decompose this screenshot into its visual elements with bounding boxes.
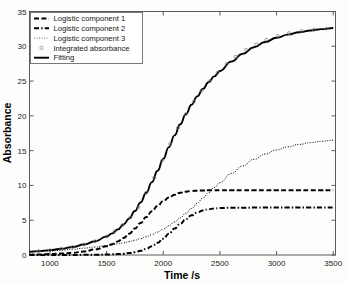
data-point-marker: [255, 43, 258, 46]
x-tick-label: 2000: [154, 259, 172, 268]
series-logistic-component-2: [30, 208, 334, 255]
x-tick-label: 3000: [268, 259, 286, 268]
legend-item-label: Logistic component 3: [54, 34, 126, 43]
legend: Logistic component 1Logistic component 2…: [31, 13, 143, 64]
legend-item-label: Logistic component 1: [54, 14, 126, 23]
y-tick-label: 30: [18, 42, 27, 51]
x-axis-title: Time /s: [164, 269, 200, 281]
legend-item-label: Integrated absorbance: [54, 44, 130, 53]
legend-item-label: Fitting: [54, 53, 75, 62]
data-point-marker: [265, 38, 268, 41]
x-axis-tick-labels: 100015002000250030003500: [41, 259, 343, 268]
data-point-marker: [244, 48, 247, 51]
chart-figure: 100015002000250030003500 05101520253035 …: [0, 0, 348, 283]
x-tick-label: 1000: [41, 259, 59, 268]
y-tick-label: 5: [22, 216, 27, 225]
y-tick-label: 15: [18, 147, 27, 156]
x-tick-label: 3500: [324, 259, 342, 268]
x-tick-label: 2500: [211, 259, 229, 268]
x-tick-label: 1500: [98, 259, 116, 268]
y-tick-label: 25: [18, 77, 27, 86]
y-axis-tick-labels: 05101520253035: [18, 8, 27, 261]
y-tick-label: 0: [22, 251, 27, 260]
legend-item-label: Logistic component 2: [54, 24, 126, 33]
y-tick-label: 35: [18, 8, 27, 17]
y-axis-title: Absorbance: [1, 103, 13, 164]
plot-canvas: 100015002000250030003500 05101520253035 …: [0, 0, 348, 283]
series-logistic-component-3: [30, 140, 334, 252]
y-tick-label: 10: [18, 181, 27, 190]
y-tick-label: 20: [18, 112, 27, 121]
